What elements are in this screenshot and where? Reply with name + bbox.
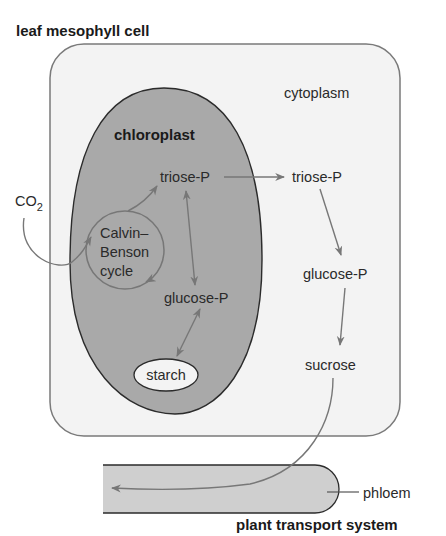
phloem-label: phloem (363, 485, 411, 501)
glucose-p-cytoplasm: glucose-P (303, 266, 367, 282)
calvin-label-1: Calvin– (100, 225, 149, 241)
glucose-p-chloroplast: glucose-P (164, 290, 228, 306)
diagram-title: leaf mesophyll cell (16, 22, 149, 39)
triose-p-chloroplast: triose-P (160, 169, 210, 185)
co2-label: CO2 (15, 193, 43, 213)
calvin-label-3: cycle (100, 263, 133, 279)
chloroplast-label: chloroplast (114, 126, 195, 143)
starch-label: starch (146, 367, 186, 383)
cytoplasm-label: cytoplasm (284, 85, 349, 101)
sucrose-label: sucrose (305, 357, 356, 373)
triose-p-cytoplasm: triose-P (292, 169, 342, 185)
transport-system-title: plant transport system (236, 516, 398, 533)
diagram-canvas: leaf mesophyll cell cytoplasm chloroplas… (0, 0, 446, 536)
calvin-label-2: Benson (100, 244, 149, 260)
